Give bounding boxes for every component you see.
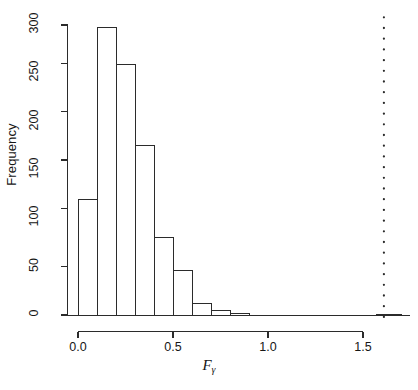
y-tick-label: 250 — [27, 51, 41, 91]
plot-canvas — [0, 0, 418, 390]
x-tick-label: 0.0 — [54, 340, 102, 354]
x-tick-label: 0.5 — [149, 340, 197, 354]
y-tick-label: 300 — [27, 3, 41, 43]
histogram-bar — [173, 271, 192, 315]
y-tick-label: 50 — [27, 245, 41, 285]
x-tick-label: 1.5 — [339, 340, 387, 354]
x-axis-title-base: F — [202, 357, 211, 373]
x-axis-title: Fγ — [0, 357, 418, 375]
histogram-bar-outlier — [376, 314, 401, 315]
y-tick-label: 150 — [27, 148, 41, 188]
y-tick-label: 0 — [27, 293, 41, 333]
y-tick-label: 200 — [27, 100, 41, 140]
x-tick-label: 1.0 — [244, 340, 292, 354]
y-axis-title: Frequency — [4, 100, 19, 210]
y-tick-label: 100 — [27, 196, 41, 236]
histogram-bar — [192, 303, 211, 315]
histogram-bar — [78, 199, 97, 315]
histogram-bar — [211, 310, 230, 315]
histogram-bar — [154, 238, 173, 315]
histogram-bar — [116, 65, 135, 315]
x-axis-title-subscript: γ — [212, 364, 216, 375]
histogram-bar — [135, 146, 154, 315]
histogram-bar — [230, 313, 249, 315]
histogram-bar — [97, 28, 116, 315]
